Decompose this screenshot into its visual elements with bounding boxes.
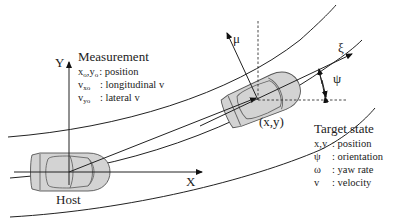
xi-label: ξ <box>338 40 344 55</box>
measurement-item-lateral-v: vyo: lateral v <box>78 92 140 105</box>
road-edge-upper <box>8 5 336 137</box>
target-position-label: (x,y) <box>259 114 284 129</box>
measurement-item-position: xo,yo: position <box>78 66 139 79</box>
target-state-legend: Target state x,y: position ψ: orientatio… <box>314 121 384 188</box>
target-item-position: x,y: position <box>314 138 372 149</box>
target-item-yaw-rate: ω: yaw rate <box>314 164 374 175</box>
vehicle-tracking-diagram: Y X Host ξ μ ψ (x,y) Measurement xo,yo: … <box>0 0 393 221</box>
orientation-angle-label: ψ <box>333 71 341 86</box>
target-item-orientation: ψ: orientation <box>314 151 384 162</box>
x-axis-label: X <box>186 174 196 189</box>
target-item-velocity: v: velocity <box>314 177 372 188</box>
measurement-title: Measurement <box>78 49 149 64</box>
measurement-item-longitudinal-v: vxo: longitudinal v <box>78 79 165 92</box>
target-state-title: Target state <box>314 121 374 136</box>
host-label: Host <box>56 192 81 207</box>
mu-label: μ <box>233 31 240 46</box>
y-axis-label: Y <box>55 55 65 70</box>
host-to-target-vector <box>69 98 256 172</box>
measurement-legend: Measurement xo,yo: position vxo: longitu… <box>78 49 165 105</box>
